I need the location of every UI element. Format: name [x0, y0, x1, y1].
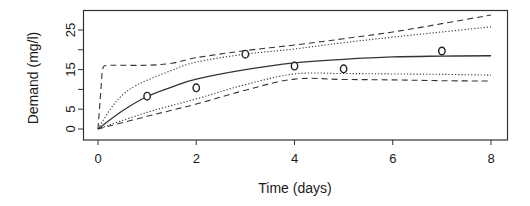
- series-lower-inner-band: [98, 73, 491, 129]
- chart: 051525 02468 Time (days) Demand (mg/l): [0, 0, 530, 206]
- observation-point: [144, 92, 150, 100]
- observation-point: [291, 62, 297, 70]
- observation-point: [439, 47, 445, 55]
- x-tick-label: 4: [291, 151, 298, 166]
- x-axis: 02468: [94, 140, 494, 166]
- y-tick-label: 5: [63, 106, 78, 113]
- series-layer: [98, 15, 491, 129]
- x-tick-label: 8: [487, 151, 494, 166]
- observation-point: [193, 84, 199, 92]
- series-lower-outer-band: [98, 78, 491, 129]
- observation-points: [144, 47, 445, 100]
- y-axis-title: Demand (mg/l): [25, 32, 41, 125]
- y-tick-label: 15: [63, 62, 78, 76]
- plot-frame: [84, 11, 508, 141]
- observation-point: [242, 50, 248, 58]
- observation-point: [340, 65, 346, 73]
- y-axis: 051525: [63, 23, 84, 133]
- series-upper-outer-band: [98, 15, 491, 129]
- y-tick-label: 0: [63, 125, 78, 132]
- x-tick-label: 2: [193, 151, 200, 166]
- x-tick-label: 6: [389, 151, 396, 166]
- x-tick-label: 0: [94, 151, 101, 166]
- y-tick-label: 25: [63, 23, 78, 37]
- x-axis-title: Time (days): [258, 180, 331, 196]
